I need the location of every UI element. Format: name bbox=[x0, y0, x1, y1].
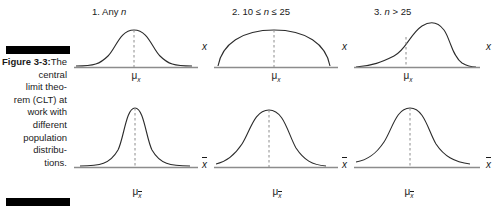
panel-population-any-n bbox=[74, 18, 214, 72]
column-2-number: 2. bbox=[232, 6, 240, 17]
mean-label-r1c1: μx bbox=[119, 70, 153, 83]
axis-label-x-r1c3: x bbox=[486, 41, 491, 52]
figure-rule-top bbox=[6, 46, 70, 54]
axis-label-xbar-r2c1: x bbox=[202, 159, 207, 170]
figure-caption: Figure 3-3:The central limit theo- rem (… bbox=[0, 56, 72, 196]
mean-label-r1c2: μx bbox=[259, 70, 293, 83]
curve-left-skewed bbox=[356, 23, 476, 67]
figure-caption-label: Figure 3-3: bbox=[2, 56, 51, 67]
column-title-2: 2. 10 ≤ n ≤ 25 bbox=[232, 6, 290, 17]
axis-label-x-r1c1: x bbox=[202, 41, 207, 52]
panel-sampling-over-25 bbox=[354, 96, 494, 172]
mean-label-r2c2: μx bbox=[260, 186, 294, 199]
column-1-number: 1. bbox=[92, 6, 100, 17]
mean-label-r1c3: μx bbox=[391, 70, 425, 83]
mean-label-r2c1: μx bbox=[120, 186, 154, 199]
panel-sampling-any-n bbox=[74, 100, 214, 172]
mean-label-r2c3: μx bbox=[392, 186, 426, 199]
curve-normal bbox=[216, 110, 326, 166]
figure-caption-body: The central limit theo- rem (CLT) at wor… bbox=[14, 56, 67, 168]
curve-normal-narrow bbox=[80, 108, 190, 166]
panel-population-over-25 bbox=[354, 12, 494, 72]
figure-3-3: Figure 3-3:The central limit theo- rem (… bbox=[0, 0, 504, 218]
plot-grid: 1. Any n 2. 10 ≤ n ≤ 25 3. n > 25 x μx bbox=[74, 0, 504, 218]
panel-population-10-to-25 bbox=[214, 18, 354, 72]
curve-normal bbox=[356, 108, 470, 164]
figure-rule-bottom bbox=[6, 198, 70, 206]
column-title-1: 1. Any n bbox=[92, 6, 126, 17]
figure-caption-text: Figure 3-3:The central limit theo- rem (… bbox=[0, 56, 72, 169]
column-2-condition: 10 ≤ n ≤ 25 bbox=[243, 6, 290, 17]
axis-label-x-r1c2: x bbox=[342, 41, 347, 52]
axis-label-xbar-r2c2: x bbox=[342, 159, 347, 170]
axis-label-xbar-r2c3: x bbox=[486, 159, 491, 170]
panel-sampling-10-to-25 bbox=[214, 100, 354, 172]
column-1-condition: Any n bbox=[102, 6, 126, 17]
